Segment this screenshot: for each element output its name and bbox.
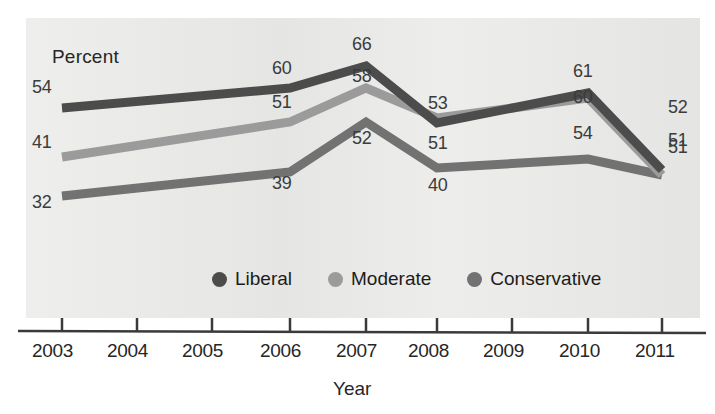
data-label-liberal-2007: 66 (352, 34, 372, 55)
x-tick-label-2009: 2009 (483, 340, 524, 362)
data-label-liberal-2006: 60 (272, 58, 292, 79)
x-tick-label-2003: 2003 (32, 340, 73, 362)
data-label-conservative-2003: 32 (32, 192, 52, 213)
legend-marker-moderate-icon (328, 272, 343, 287)
legend-item-liberal[interactable]: Liberal (212, 268, 292, 290)
data-label-moderate-2010: 60 (573, 87, 593, 108)
data-label-moderate-2006: 51 (272, 92, 292, 113)
legend-label-conservative: Conservative (490, 268, 601, 290)
x-tick-label-2005: 2005 (182, 340, 223, 362)
data-label-liberal-2003: 54 (32, 77, 52, 98)
legend-label-liberal: Liberal (235, 268, 292, 290)
legend-marker-liberal-icon (212, 272, 227, 287)
data-label-liberal-2010: 61 (573, 61, 593, 82)
data-label-liberal-2011: 52 (668, 97, 688, 118)
x-tick-label-2008: 2008 (408, 340, 449, 362)
legend-item-conservative[interactable]: Conservative (467, 268, 601, 290)
data-label-conservative-2006: 39 (272, 173, 292, 194)
legend: Liberal Moderate Conservative (212, 268, 601, 290)
legend-item-moderate[interactable]: Moderate (328, 268, 431, 290)
line-chart: Percent 54 60 66 53 61 52 41 51 58 51 60… (0, 0, 715, 414)
x-axis-line (18, 331, 706, 333)
data-label-liberal-2008: 53 (428, 93, 448, 114)
data-label-conservative-2008: 40 (428, 175, 448, 196)
legend-marker-conservative-icon (467, 272, 482, 287)
data-label-moderate-2008: 51 (428, 133, 448, 154)
x-tick-label-2010: 2010 (559, 340, 600, 362)
x-axis-title: Year (333, 378, 371, 400)
y-axis-title: Percent (52, 46, 119, 68)
x-tick-label-2006: 2006 (260, 340, 301, 362)
data-label-conservative-2011: 51 (668, 130, 688, 151)
data-label-conservative-2007: 52 (352, 128, 372, 149)
data-label-moderate-2003: 41 (32, 132, 52, 153)
x-tick-label-2011: 2011 (635, 340, 675, 362)
data-label-moderate-2007: 58 (352, 66, 372, 87)
x-tick-label-2004: 2004 (107, 340, 148, 362)
x-tick-label-2007: 2007 (336, 340, 377, 362)
legend-label-moderate: Moderate (351, 268, 431, 290)
data-label-conservative-2010: 54 (573, 123, 593, 144)
